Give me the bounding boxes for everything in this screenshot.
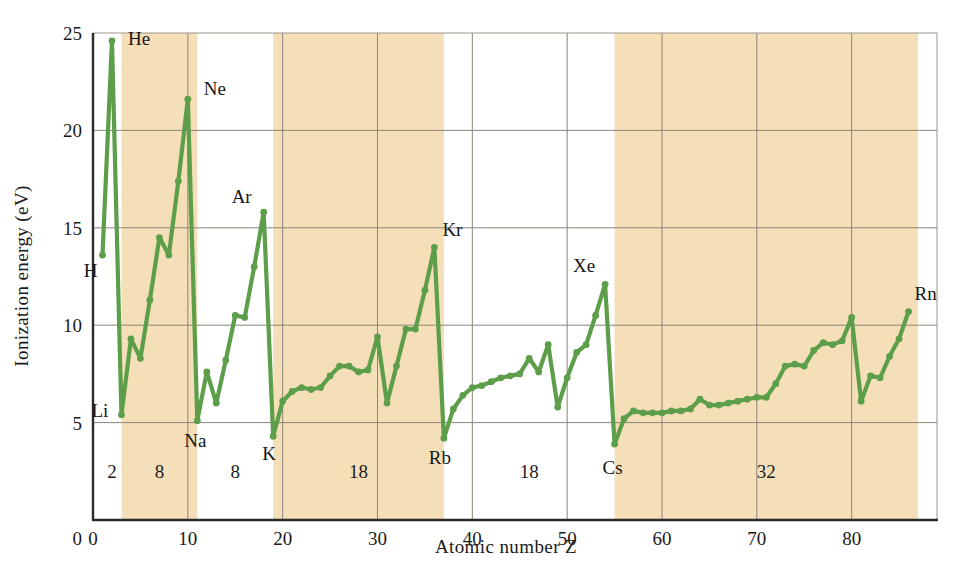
data-point-marker	[365, 367, 372, 374]
data-point-marker	[839, 337, 846, 344]
data-point-marker	[668, 408, 675, 415]
data-point-marker	[535, 369, 542, 376]
element-label-k: K	[262, 443, 276, 464]
data-point-marker	[715, 402, 722, 409]
data-point-marker	[374, 333, 381, 340]
data-point-marker	[450, 406, 457, 413]
x-tick-label: 70	[747, 528, 766, 549]
period-band-shaded	[273, 33, 444, 520]
data-point-marker	[706, 402, 713, 409]
y-tick-label: 10	[63, 315, 82, 336]
period-electron-count: 8	[230, 461, 240, 482]
data-point-marker	[545, 341, 552, 348]
data-point-marker	[583, 341, 590, 348]
data-point-marker	[791, 361, 798, 368]
data-point-marker	[469, 384, 476, 391]
period-electron-count: 18	[349, 461, 368, 482]
data-point-marker	[156, 234, 163, 241]
data-point-marker	[422, 287, 429, 294]
data-point-marker	[260, 209, 267, 216]
data-point-marker	[440, 435, 447, 442]
data-point-marker	[554, 404, 561, 411]
data-point-marker	[128, 335, 135, 342]
data-point-marker	[251, 263, 258, 270]
period-electron-count: 8	[155, 461, 165, 482]
data-point-marker	[279, 398, 286, 405]
period-electron-count: 32	[757, 461, 776, 482]
data-point-marker	[346, 363, 353, 370]
element-label-ar: Ar	[232, 186, 253, 207]
data-point-marker	[109, 37, 116, 44]
element-label-na: Na	[184, 430, 207, 451]
element-label-cs: Cs	[603, 457, 623, 478]
data-point-marker	[298, 384, 305, 391]
data-point-marker	[678, 408, 685, 415]
period-band-shaded	[615, 33, 918, 520]
y-axis-title: Ionization energy (eV)	[11, 185, 33, 367]
data-point-marker	[801, 363, 808, 370]
element-label-ne: Ne	[204, 78, 226, 99]
x-tick-label: 0	[88, 528, 98, 549]
data-point-marker	[611, 441, 618, 448]
data-point-marker	[858, 398, 865, 405]
data-point-marker	[241, 314, 248, 321]
data-point-marker	[184, 96, 191, 103]
element-label-xe: Xe	[573, 255, 595, 276]
data-point-marker	[886, 353, 893, 360]
data-point-marker	[165, 252, 172, 259]
data-point-marker	[630, 408, 637, 415]
data-point-marker	[744, 396, 751, 403]
y-axis-ticks-layer: 5101520250	[63, 23, 82, 549]
element-label-kr: Kr	[442, 219, 463, 240]
element-label-rn: Rn	[915, 283, 938, 304]
data-point-marker	[621, 415, 628, 422]
data-point-marker	[497, 374, 504, 381]
element-label-rb: Rb	[429, 447, 451, 468]
data-point-marker	[459, 392, 466, 399]
data-point-marker	[507, 372, 514, 379]
data-point-marker	[687, 406, 694, 413]
data-point-marker	[308, 386, 315, 393]
data-point-marker	[232, 312, 239, 319]
chart-svg: HHeLiNeNaArKKrRbXeCsRn 288181832 0102030…	[0, 0, 970, 569]
data-point-marker	[175, 178, 182, 185]
data-point-marker	[516, 371, 523, 378]
data-point-marker	[697, 396, 704, 403]
data-point-marker	[194, 417, 201, 424]
data-point-marker	[782, 363, 789, 370]
y-tick-label: 15	[63, 218, 82, 239]
data-point-marker	[573, 349, 580, 356]
data-point-marker	[753, 394, 760, 401]
data-point-marker	[222, 357, 229, 364]
data-point-marker	[355, 369, 362, 376]
data-point-marker	[820, 339, 827, 346]
data-point-marker	[137, 355, 144, 362]
element-label-li: Li	[92, 400, 109, 421]
data-point-marker	[118, 411, 125, 418]
data-point-marker	[905, 308, 912, 315]
data-point-marker	[867, 372, 874, 379]
x-tick-label: 10	[178, 528, 197, 549]
period-bands-layer	[121, 33, 918, 520]
data-point-marker	[725, 400, 732, 407]
data-point-marker	[384, 400, 391, 407]
data-point-marker	[810, 347, 817, 354]
data-point-marker	[829, 341, 836, 348]
data-point-marker	[393, 363, 400, 370]
data-point-marker	[289, 388, 296, 395]
data-point-marker	[412, 326, 419, 333]
ionization-energy-chart: HHeLiNeNaArKKrRbXeCsRn 288181832 0102030…	[0, 0, 970, 569]
data-point-marker	[772, 380, 779, 387]
data-point-marker	[336, 363, 343, 370]
x-tick-label: 20	[273, 528, 292, 549]
y-tick-label: 25	[63, 23, 82, 44]
element-label-he: He	[128, 28, 150, 49]
data-point-marker	[431, 244, 438, 251]
element-label-h: H	[84, 260, 98, 281]
y-tick-label: 5	[73, 413, 83, 434]
data-point-marker	[659, 409, 666, 416]
data-point-marker	[270, 433, 277, 440]
x-tick-label: 60	[653, 528, 672, 549]
x-tick-label: 80	[842, 528, 861, 549]
data-point-marker	[526, 355, 533, 362]
